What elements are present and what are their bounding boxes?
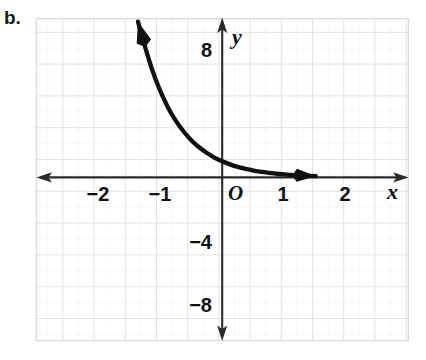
x-tick-label-1: 1	[277, 183, 288, 205]
x-tick-label-2: 2	[339, 183, 350, 205]
y-tick-label-neg8: −8	[189, 294, 212, 316]
y-tick-label-neg4: −4	[189, 231, 213, 253]
part-label: b.	[4, 8, 21, 27]
x-tick-label-neg1: −1	[149, 183, 172, 205]
y-tick-label-8: 8	[201, 39, 212, 61]
coordinate-plane: y x O −2 −1 1 2 8 −4 −8	[0, 0, 426, 360]
x-tick-label-neg2: −2	[87, 183, 110, 205]
origin-label: O	[228, 181, 243, 205]
x-axis-label: x	[386, 179, 398, 204]
graph-figure: b.	[0, 0, 426, 360]
